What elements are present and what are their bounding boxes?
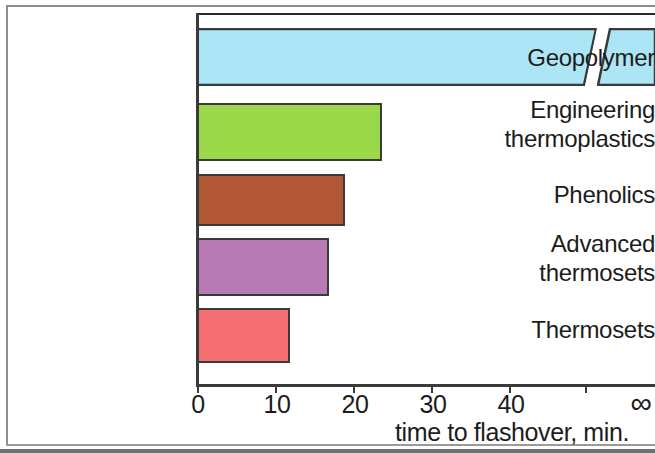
x-axis-tick-label-40: 40 xyxy=(498,390,525,419)
bar-engineering-thermoplastics xyxy=(197,103,382,161)
y-axis-line xyxy=(196,13,199,385)
bar-thermosets xyxy=(197,308,290,363)
x-axis-tick-label-0: 0 xyxy=(191,390,204,419)
category-label-geopolymer: Geopolymer xyxy=(475,43,655,72)
category-label-advanced-thermosets: Advanced thermosets xyxy=(475,229,655,287)
x-axis-title: time to flashover, min. xyxy=(395,418,629,447)
bar-advanced-thermosets xyxy=(197,238,329,296)
bar-phenolics xyxy=(197,174,345,226)
x-axis-tick-label-30: 30 xyxy=(420,390,447,419)
x-axis-tick-label-infinity: ∞ xyxy=(631,386,652,420)
bar-chart-plot-area: 0 10 20 30 40 ∞ Geopolymer Engineering t… xyxy=(0,0,655,453)
category-label-thermosets: Thermosets xyxy=(475,315,655,344)
category-label-phenolics: Phenolics xyxy=(475,180,655,209)
plot-top-border xyxy=(197,13,655,15)
figure: 0 10 20 30 40 ∞ Geopolymer Engineering t… xyxy=(0,0,655,453)
x-axis-tick-label-10: 10 xyxy=(264,390,291,419)
x-axis-tick-50 xyxy=(585,384,587,393)
x-axis-tick-label-20: 20 xyxy=(342,390,369,419)
category-label-engineering-thermoplastics: Engineering thermoplastics xyxy=(469,95,655,153)
